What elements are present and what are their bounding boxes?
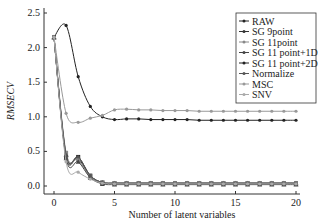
legend-item: Normalize: [252, 68, 295, 79]
x-tick-label: 15: [231, 197, 241, 208]
legend-item: SG 11point: [252, 37, 298, 48]
y-tick-label: 2.5: [28, 7, 41, 18]
legend-item: SNV: [252, 89, 273, 100]
x-tick-label: 10: [170, 197, 180, 208]
y-tick-label: 2.0: [28, 42, 41, 53]
line-chart: 0.00.51.01.52.02.505101520Number of late…: [0, 0, 318, 224]
y-tick-label: 0.5: [28, 145, 41, 156]
x-tick-label: 0: [52, 197, 57, 208]
legend: RAWSG 9pointSG 11pointSG 11 point+1DSG 1…: [236, 13, 318, 103]
y-tick-label: 1.0: [28, 111, 41, 122]
x-tick-label: 20: [291, 197, 301, 208]
y-tick-label: 0.0: [28, 180, 41, 191]
legend-item: SG 11 point+2D: [252, 58, 318, 69]
legend-item: SG 9point: [252, 26, 293, 37]
x-tick-label: 5: [112, 197, 117, 208]
y-axis-label: RMSECV: [5, 80, 16, 121]
legend-item: MSC: [252, 79, 273, 90]
y-tick-label: 1.5: [28, 76, 41, 87]
legend-item: SG 11 point+1D: [252, 47, 318, 58]
legend-item: RAW: [252, 16, 275, 27]
x-axis-label: Number of latent variables: [129, 209, 236, 220]
